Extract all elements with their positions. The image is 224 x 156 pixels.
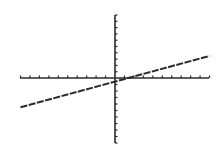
axes <box>20 15 209 143</box>
graph-plot <box>0 0 224 156</box>
